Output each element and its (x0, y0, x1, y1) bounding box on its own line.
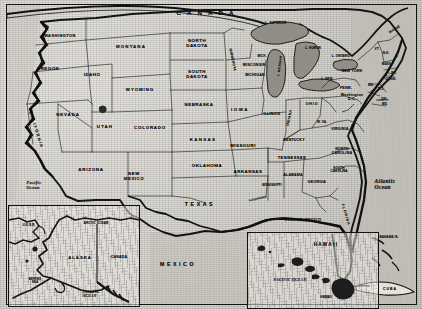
state-label-rhode-island: R.I. (391, 72, 396, 75)
state-label-texas: TEXAS (185, 202, 215, 207)
state-label-maryland: MD. (382, 103, 388, 106)
alaska-inset-label-pacific-ocean: PACIFIC OCEAN (82, 290, 99, 298)
state-label-new-jersey: N.J. (378, 88, 384, 91)
state-label-new-hampshire: N.H. (383, 52, 390, 55)
state-label-connecticut: CONN. (386, 78, 396, 81)
state-label-south-carolina: SOUTH CAROLINA (330, 167, 347, 174)
state-label-michigan: MICHIGAN (245, 74, 265, 78)
alaska-inset-label-arctic-ocean: ARCTIC OCEAN (84, 222, 109, 225)
lake-label-ontario: L. ONTARIO (332, 55, 351, 58)
state-label-delaware: DEL. (381, 98, 388, 101)
us-map-image: CANADA MEXICO CUBA WASHINGTON OREGON IDA… (0, 0, 422, 309)
alaska-inset-label-canada: CANADA (111, 256, 128, 260)
state-label-georgia: GEORGIA (308, 181, 326, 185)
state-label-virginia: VIRGINIA (331, 128, 349, 132)
state-label-north-carolina: NORTH CAROLINA (332, 148, 352, 156)
alaska-inset-label-ussr: U.S.S.R. (23, 224, 36, 227)
city-label-washington-dc: Washington D.C. (341, 94, 363, 102)
state-label-iowa: IOWA (231, 108, 249, 112)
state-label-illinois: ILLINOIS (264, 113, 281, 117)
country-label-canada: CANADA (177, 10, 240, 16)
state-label-arizona: ARIZONA (78, 168, 104, 172)
lake-label-superior: L. SUPERIOR (266, 22, 287, 25)
state-label-mississippi: MISSISSIPPI (262, 184, 282, 187)
state-label-oregon: OREGON (37, 67, 60, 71)
state-label-mich-upper: MICH. (257, 55, 266, 58)
lake-label-erie: L. ERIE (321, 78, 333, 81)
ocean-label-pacific: Pacific Ocean (27, 181, 42, 190)
hawaii-inset-title: HAWAII (314, 243, 339, 248)
state-label-south-dakota: SOUTH DAKOTA (186, 70, 207, 80)
state-label-ohio: OHIO (306, 103, 319, 107)
state-label-washington: WASHINGTON (44, 34, 76, 38)
country-label-cuba: CUBA (383, 288, 397, 292)
state-label-montana: MONTANA (116, 45, 146, 49)
state-label-tennessee: TENNESSEE (278, 156, 307, 160)
hawaii-inset: HAWAII PACIFIC OCEAN HAWAII (247, 232, 379, 309)
state-label-west-virginia: W. VA. (317, 121, 327, 124)
alaska-inset: U.S.S.R. ARCTIC OCEAN ALASKA CANADA BERI… (8, 205, 140, 307)
state-label-arkansas: ARKANSAS (234, 170, 263, 174)
alaska-inset-label-alaska: ALASKA (68, 256, 91, 260)
alaska-inset-label-bering-sea: BERING SEA (29, 278, 42, 285)
state-label-nevada: NEVADA (56, 113, 80, 117)
state-label-idaho: IDAHO (84, 73, 101, 77)
state-label-colorado: COLORADO (134, 126, 166, 130)
state-label-nebraska: NEBRASKA (185, 103, 214, 107)
state-label-wyoming: WYOMING (126, 88, 154, 92)
state-label-missouri: MISSOURI (230, 144, 256, 148)
water-label-gulf-of-mexico: GULF OF MEXICO (285, 219, 321, 223)
state-label-new-mexico: NEW MEXICO (124, 172, 144, 182)
hawaii-inset-label-hawaii-island: HAWAII (320, 296, 332, 299)
state-label-new-york: NEW YORK (341, 70, 362, 74)
state-label-north-dakota: NORTH DAKOTA (186, 39, 207, 49)
state-label-utah: UTAH (97, 125, 113, 129)
state-label-alabama: ALABAMA (283, 174, 302, 178)
country-label-mexico: MEXICO (160, 262, 196, 267)
state-label-oklahoma: OKLAHOMA (192, 164, 223, 168)
island-label-bahamas: BAHAMA IS. (379, 236, 398, 239)
state-label-maryland-pointer: MD. (368, 84, 374, 87)
ocean-label-atlantic: Atlantic Ocean (375, 178, 396, 190)
lake-label-huron: L. HURON (305, 47, 321, 50)
state-label-wisconsin: WISCONSIN (243, 64, 265, 68)
state-label-pennsylvania: PENN. (340, 87, 352, 91)
state-label-massachusetts: MASS. (382, 63, 392, 66)
state-label-kentucky: KENTUCKY (283, 139, 304, 143)
hawaii-inset-label-pacific-ocean: PACIFIC OCEAN (274, 279, 307, 283)
state-label-kansas: KANSAS (190, 138, 216, 142)
state-label-vermont: VT. (375, 48, 380, 51)
